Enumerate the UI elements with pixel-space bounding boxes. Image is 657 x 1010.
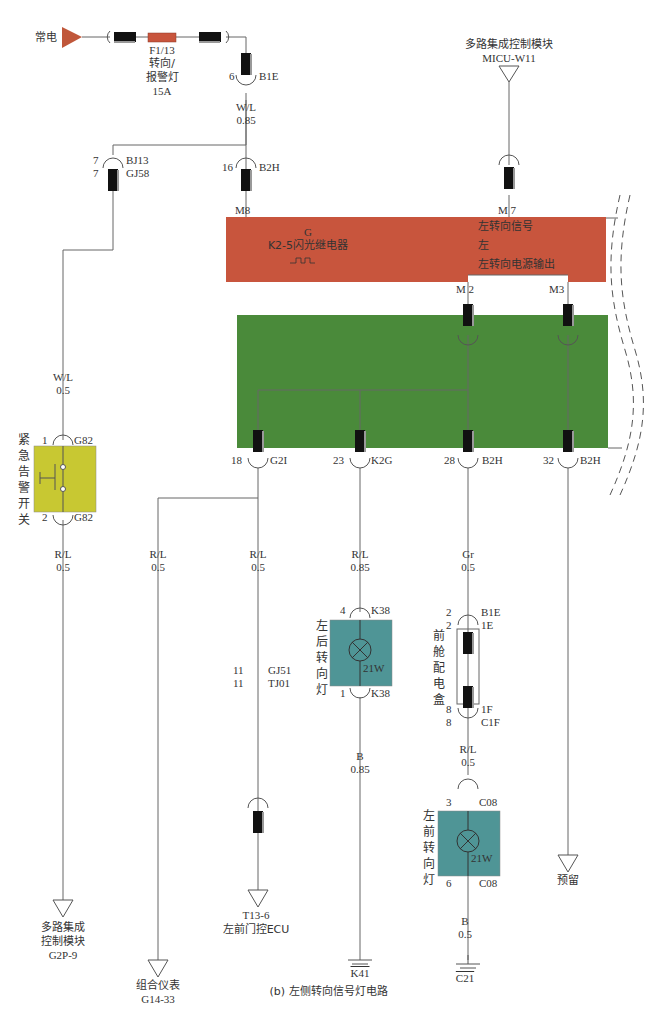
- hazard-switch-box: [34, 446, 96, 512]
- front-lamp-power: 21W: [471, 852, 492, 865]
- wire-color: R/L: [249, 548, 266, 561]
- dest-micu-label: 控制模块: [41, 935, 85, 948]
- fuse-name-2: 报警灯: [146, 71, 179, 84]
- connector-pin: 2: [446, 619, 452, 632]
- power-source-icon: [62, 27, 82, 48]
- rear-lamp-label: 左后转向灯: [316, 618, 328, 698]
- connector-pin: 28: [444, 454, 455, 467]
- connector-pin: 1: [42, 434, 48, 447]
- connector-pin: 3: [446, 796, 452, 809]
- figure-caption: (b) 左侧转向信号灯电路: [0, 982, 657, 998]
- fuse-name-1: 转向/: [149, 57, 175, 70]
- connector-pin: 11: [233, 664, 244, 677]
- wire-color: R/L: [54, 548, 71, 561]
- connector-pin: 1: [340, 687, 346, 700]
- connector-pin: 7: [93, 154, 99, 167]
- wire-gauge: 0.5: [461, 756, 475, 769]
- connector-id: G82: [74, 511, 93, 524]
- connector-id: GJ51: [268, 664, 291, 677]
- connector-id: C08: [479, 877, 497, 890]
- connector-pin: 2: [42, 511, 48, 524]
- connector-id: G82: [74, 434, 93, 447]
- dest-micu-id: G2P-9: [49, 949, 78, 962]
- front-lamp-label: 左前转向灯: [423, 808, 435, 888]
- dest-door-id: T13-6: [243, 909, 270, 922]
- wire-gauge: 0.85: [350, 763, 369, 776]
- dest-door-label: 左前门控ECU: [223, 923, 290, 936]
- connector-id: K38: [371, 687, 390, 700]
- micu-id: MICU-W11: [482, 52, 535, 65]
- connector-id: TJ01: [268, 677, 290, 690]
- connector-pin: 23: [333, 454, 344, 467]
- wire-gauge: 0.85: [350, 561, 369, 574]
- wire-gauge: 0.5: [251, 561, 265, 574]
- wire-color: W/L: [53, 371, 73, 384]
- connector-pin: 32: [543, 454, 554, 467]
- wire-gauge: 0.85: [236, 114, 255, 127]
- connector-id: GJ58: [126, 167, 149, 180]
- connector-id: B1E: [259, 70, 279, 83]
- wire-gauge: 0.5: [56, 561, 70, 574]
- connector-id: K2G: [371, 454, 392, 467]
- wire-gauge: 0.5: [458, 928, 472, 941]
- connector-id: B2H: [482, 454, 503, 467]
- wire-color: W/L: [236, 101, 256, 114]
- connector-pin: 4: [340, 604, 346, 617]
- connector-id: BJ13: [126, 154, 149, 167]
- relay-pin-m8: M8: [235, 204, 250, 217]
- connector-pin: 16: [222, 161, 233, 174]
- dest-reserved-label: 预留: [557, 874, 579, 887]
- relay-left: 左: [478, 239, 489, 252]
- connector-id: 1E: [481, 619, 493, 632]
- connector-pin: 6: [446, 877, 452, 890]
- fuse-rating: 15A: [153, 85, 172, 98]
- junction-box: [237, 315, 608, 448]
- wire-color: R/L: [149, 548, 166, 561]
- front-fuse-box-label: 前舱配电盒: [433, 628, 445, 708]
- wire-gauge: 0.5: [151, 561, 165, 574]
- ground-rear: K41: [351, 967, 370, 980]
- circuit-graphics: [0, 0, 657, 1010]
- rear-lamp-power: 21W: [363, 662, 384, 675]
- wire-color: Gr: [462, 548, 474, 561]
- connector-pin: 7: [93, 167, 99, 180]
- connector-id: B2H: [259, 161, 280, 174]
- wire-color: B: [461, 915, 468, 928]
- connector-id: B2H: [580, 454, 601, 467]
- connector-id: 1F: [481, 703, 493, 716]
- wire-gauge: 0.5: [461, 561, 475, 574]
- connector-pin: 18: [231, 454, 242, 467]
- relay-title-g: G: [304, 226, 312, 239]
- wire-color: R/L: [459, 743, 476, 756]
- connector-id: G2I: [270, 454, 287, 467]
- relay-pin-m3: M3: [549, 283, 564, 296]
- connector-pin: 6: [229, 70, 235, 83]
- fuse-icon: [148, 33, 176, 42]
- connector-id: K38: [371, 604, 390, 617]
- wire-color: R/L: [351, 548, 368, 561]
- dest-micu-label: 多路集成: [41, 921, 85, 934]
- connector-pin: 8: [446, 703, 452, 716]
- relay-pin-m2: M 2: [456, 283, 474, 296]
- connector-pin: 11: [233, 677, 244, 690]
- fuse-id: F1/13: [149, 44, 175, 57]
- wire-color: B: [356, 750, 363, 763]
- connector-id: B1E: [481, 606, 501, 619]
- relay-signal-in: 左转向信号: [478, 220, 533, 233]
- micu-name: 多路集成控制模块: [465, 38, 553, 51]
- hazard-switch-label: 紧急告警开关: [18, 432, 30, 528]
- relay-power-out: 左转向电源输出: [478, 258, 555, 271]
- wire-gauge: 0.5: [56, 384, 70, 397]
- power-source-label: 常电: [35, 31, 57, 44]
- relay-title: K2-5闪光继电器: [268, 239, 348, 252]
- connector-pin: 8: [446, 716, 452, 729]
- connector-pin: 2: [446, 606, 452, 619]
- connector-id: C1F: [481, 716, 500, 729]
- connector-id: C08: [479, 796, 497, 809]
- relay-pin-m7: M 7: [498, 204, 516, 217]
